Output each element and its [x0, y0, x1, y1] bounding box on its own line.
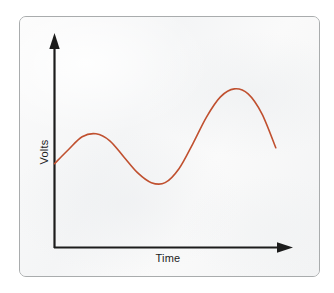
graph-figure: Volts Time	[0, 0, 334, 293]
volts-time-curve	[55, 89, 276, 184]
x-axis-label: Time	[156, 253, 181, 264]
y-axis-label: Volts	[39, 140, 50, 165]
x-axis-arrowhead	[277, 242, 293, 252]
y-axis-arrowhead	[49, 33, 59, 49]
plot-canvas	[0, 0, 334, 293]
